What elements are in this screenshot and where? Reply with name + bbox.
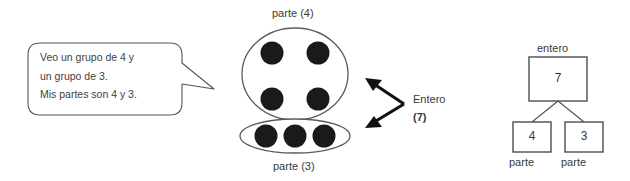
counter-dot xyxy=(261,88,284,111)
counter-dot xyxy=(307,88,330,111)
bond-whole-value: 7 xyxy=(529,71,587,85)
label-bond-part-left: parte xyxy=(509,155,534,170)
bond-part-left-value: 4 xyxy=(513,129,551,143)
label-whole-arrow: Entero (7) xyxy=(413,92,445,125)
counter-dot xyxy=(313,125,336,148)
bond-connector-left xyxy=(532,101,558,122)
top-group-ellipse xyxy=(242,28,348,120)
counter-dot xyxy=(284,125,307,148)
ellipse-part-4 xyxy=(242,28,348,120)
counter-dot xyxy=(255,125,278,148)
speech-line-1: Veo un grupo de 4 y xyxy=(40,52,180,63)
label-part-4: parte (4) xyxy=(272,6,314,21)
counter-dot xyxy=(307,42,330,65)
speech-line-3: Mis partes son 4 y 3. xyxy=(40,89,180,100)
label-bond-whole: entero xyxy=(537,41,568,56)
bond-part-right-value: 3 xyxy=(565,129,603,143)
worksheet-canvas: Veo un grupo de 4 y un grupo de 3. Mis p… xyxy=(0,0,630,181)
label-whole-text: Entero xyxy=(413,93,445,105)
counter-dot xyxy=(261,42,284,65)
label-whole-value: (7) xyxy=(413,110,445,125)
label-bond-part-right: parte xyxy=(561,155,586,170)
speech-line-2: un grupo de 3. xyxy=(40,71,180,82)
speech-bubble-text: Veo un grupo de 4 y un grupo de 3. Mis p… xyxy=(40,52,180,100)
bond-connector-right xyxy=(558,101,584,122)
bottom-group-ellipse xyxy=(240,119,350,153)
label-part-3: parte (3) xyxy=(273,159,315,174)
whole-bracket-arrow xyxy=(371,82,404,124)
